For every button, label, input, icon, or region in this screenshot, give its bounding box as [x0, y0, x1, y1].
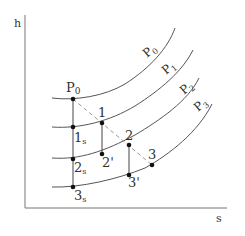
point-1s [71, 125, 76, 130]
label-2: 2 [125, 128, 133, 143]
isobar-label-p1: P1 [159, 58, 179, 79]
label-2prime: 2' [102, 155, 114, 170]
point-3 [150, 163, 155, 168]
label-3prime: 3' [128, 175, 140, 190]
y-axis-label: h [14, 17, 21, 30]
label-p0: P0 [66, 80, 81, 96]
label-3: 3 [148, 147, 156, 162]
label-3s: 3s [74, 188, 86, 204]
svg-text:P2: P2 [177, 78, 197, 99]
point-2 [127, 143, 132, 148]
svg-text:P0: P0 [140, 41, 160, 62]
label-1s: 1s [74, 130, 86, 146]
isobar-label-p0: P0 [140, 41, 160, 62]
point-p0 [71, 97, 76, 102]
isobar-label-p3: P3 [191, 95, 211, 116]
label-2s: 2s [74, 160, 86, 176]
isobar-label-p2: P2 [177, 78, 197, 99]
diagram-canvas: h s P0 P1 P2 P3 P0 1 2 3 1s 2s 3s 2' 3' [0, 0, 245, 236]
svg-text:P3: P3 [191, 95, 211, 116]
label-1: 1 [98, 105, 106, 120]
svg-text:P1: P1 [159, 58, 179, 79]
h-s-diagram: h s P0 P1 P2 P3 P0 1 2 3 1s 2s 3s 2' 3' [0, 0, 245, 236]
point-1 [100, 121, 105, 126]
x-axis-label: s [216, 212, 222, 225]
